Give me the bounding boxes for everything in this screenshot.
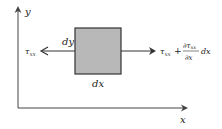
- plus-sign: +: [174, 46, 182, 56]
- fluid-element-box: [75, 28, 121, 74]
- right-stress-expression: τxx + ∂τxx ∂x dx: [160, 42, 211, 62]
- y-axis: [15, 6, 22, 108]
- x-axis: [18, 105, 188, 112]
- stress-element-diagram: y x dy dx τxx τxx + ∂τxx ∂x dx: [0, 0, 222, 129]
- x-axis-label: x: [180, 114, 186, 125]
- dy-label: dy: [62, 36, 74, 47]
- left-stress-label: τxx: [25, 47, 37, 57]
- partial-numerator: ∂τxx: [183, 42, 196, 50]
- left-force-arrow: [41, 47, 75, 55]
- right-force-arrow: [121, 47, 156, 55]
- dx-multiplier: dx: [201, 47, 211, 56]
- partial-denominator: ∂x: [185, 54, 193, 62]
- right-stress-term: τxx: [160, 47, 172, 57]
- dx-label: dx: [92, 78, 104, 89]
- y-axis-label: y: [24, 6, 31, 17]
